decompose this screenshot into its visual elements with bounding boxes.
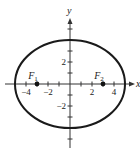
y-tick-label: 2 bbox=[62, 57, 67, 67]
focus-label-1: F1 bbox=[27, 70, 38, 83]
y-axis-label: y bbox=[66, 5, 72, 16]
ellipse-diagram: x y −4−2242−2 F1F2 bbox=[0, 0, 140, 150]
y-tick-label: −2 bbox=[56, 101, 66, 111]
focus-label-2: F2 bbox=[93, 70, 104, 83]
x-tick-label: −2 bbox=[43, 87, 53, 97]
x-axis-arrow-icon bbox=[129, 82, 135, 87]
y-axis-arrow-icon bbox=[68, 18, 73, 24]
x-tick-label: 2 bbox=[90, 87, 95, 97]
x-tick-label: −4 bbox=[21, 87, 31, 97]
x-tick-label: 4 bbox=[112, 87, 117, 97]
x-axis-label: x bbox=[135, 78, 140, 89]
